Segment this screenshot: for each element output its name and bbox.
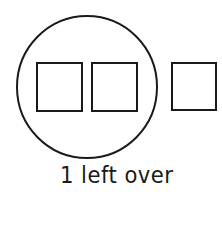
grouped-square	[92, 63, 137, 111]
grouped-square	[37, 63, 82, 111]
leftover-caption: 1 left over	[60, 160, 170, 190]
leftover-square	[172, 63, 216, 110]
